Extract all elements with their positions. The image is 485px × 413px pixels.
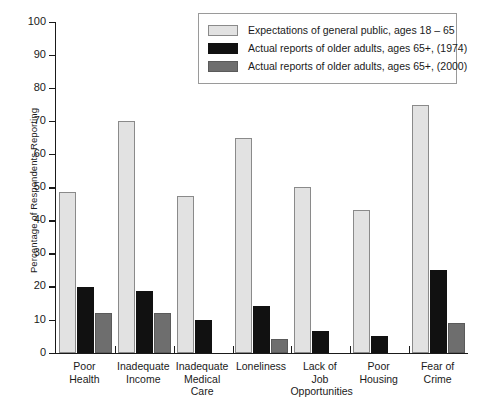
bar <box>353 210 370 352</box>
x-axis-line <box>55 353 468 354</box>
category-label-line: Opportunities <box>290 385 349 398</box>
category-label-line: Loneliness <box>232 360 291 373</box>
category-separator <box>291 346 292 353</box>
category-separator <box>174 346 175 353</box>
y-tick-mark <box>49 88 55 89</box>
legend: Expectations of general public, ages 18 … <box>198 13 457 84</box>
y-tick-label: 40 <box>34 214 46 225</box>
legend-label-actual-2000: Actual reports of older adults, ages 65+… <box>248 61 467 72</box>
category-label-line: Poor <box>55 360 114 373</box>
category-label: PoorHousing <box>349 360 408 385</box>
y-tick-mark <box>49 22 55 23</box>
bar <box>59 192 76 352</box>
y-tick-mark <box>49 154 55 155</box>
legend-swatch-icon-expectations <box>208 25 238 36</box>
bar <box>371 336 388 353</box>
y-tick-mark <box>49 121 55 122</box>
bar <box>195 320 212 353</box>
bar <box>177 196 194 353</box>
bar <box>271 339 288 352</box>
y-tick-label: 70 <box>34 115 46 126</box>
bar <box>294 187 311 352</box>
category-separator <box>115 346 116 353</box>
category-label: PoorHealth <box>55 360 114 385</box>
category-label-line: Inadequate <box>173 360 232 373</box>
bar <box>412 105 429 353</box>
bar <box>253 306 270 352</box>
category-label-line: Health <box>55 373 114 386</box>
legend-item-expectations: Expectations of general public, ages 18 … <box>208 21 447 39</box>
category-label: InadequateMedicalCare <box>173 360 232 398</box>
y-tick-label: 10 <box>34 314 46 325</box>
category-label-line: Crime <box>408 373 467 386</box>
category-label-line: Housing <box>349 373 408 386</box>
bar <box>312 331 329 352</box>
category-separator <box>350 346 351 353</box>
bar <box>136 291 153 352</box>
y-tick-mark <box>49 253 55 254</box>
y-tick-label: 80 <box>34 82 46 93</box>
category-label: InadequateIncome <box>114 360 173 385</box>
category-label-line: Medical <box>173 373 232 386</box>
bar-group <box>56 22 115 353</box>
category-label-line: Fear of <box>408 360 467 373</box>
legend-swatch-icon-actual-1974 <box>208 43 238 54</box>
category-label: Lack ofJobOpportunities <box>290 360 349 398</box>
category-separator <box>233 346 234 353</box>
category-separator <box>409 346 410 353</box>
y-tick-label: 100 <box>28 16 46 27</box>
bar <box>154 313 171 353</box>
y-tick-label: 50 <box>34 181 46 192</box>
y-tick-label: 90 <box>34 49 46 60</box>
category-label: Fear ofCrime <box>408 360 467 385</box>
y-tick-label: 30 <box>34 247 46 258</box>
category-label-line: Poor <box>349 360 408 373</box>
bar <box>430 270 447 353</box>
y-tick-label: 60 <box>34 148 46 159</box>
category-label-line: Care <box>173 385 232 398</box>
legend-label-actual-1974: Actual reports of older adults, ages 65+… <box>248 43 467 54</box>
legend-swatch-icon-actual-2000 <box>208 61 238 72</box>
y-tick-mark <box>49 55 55 56</box>
y-tick-mark <box>49 286 55 287</box>
x-axis-category-labels: PoorHealthInadequateIncomeInadequateMedi… <box>55 360 468 412</box>
category-label-line: Inadequate <box>114 360 173 373</box>
y-tick-label: 0 <box>40 347 46 358</box>
y-tick-mark <box>49 353 55 354</box>
legend-item-actual-1974: Actual reports of older adults, ages 65+… <box>208 39 447 57</box>
y-tick-label: 20 <box>34 280 46 291</box>
bar-chart: Percentage of Respondents Reporting 0102… <box>0 0 485 413</box>
bar <box>235 138 252 353</box>
bar <box>95 313 112 353</box>
category-label-line: Lack of <box>290 360 349 373</box>
bar-group <box>115 22 174 353</box>
y-tick-mark <box>49 187 55 188</box>
legend-item-actual-2000: Actual reports of older adults, ages 65+… <box>208 57 447 75</box>
bar <box>77 287 94 353</box>
category-label-line: Job <box>290 373 349 386</box>
legend-label-expectations: Expectations of general public, ages 18 … <box>248 25 455 36</box>
bar <box>448 323 465 353</box>
category-label-line: Income <box>114 373 173 386</box>
y-tick-mark <box>49 320 55 321</box>
bar <box>118 121 135 352</box>
category-label: Loneliness <box>232 360 291 373</box>
y-tick-mark <box>49 220 55 221</box>
